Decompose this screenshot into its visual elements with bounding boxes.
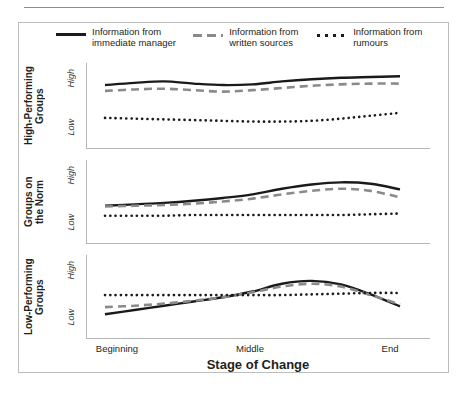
y-tick-high: High [66, 261, 76, 280]
legend-label: Information from rumours [353, 26, 422, 48]
legend-label: Information from immediate manager [92, 26, 176, 48]
dotted-line-icon [317, 29, 347, 41]
chart-legend: Information from immediate manager Infor… [38, 26, 428, 60]
panel-label: Groups on the Norm [26, 160, 42, 244]
series-line [105, 113, 400, 122]
panel-label: Low-Performing Groups [26, 255, 42, 339]
plot-area-panel-1 [86, 63, 430, 149]
y-tick-high: High [66, 166, 76, 185]
series-line [105, 214, 400, 216]
series-line [105, 182, 400, 205]
y-tick-low: Low [66, 309, 76, 326]
top-horizontal-rule [24, 7, 444, 8]
x-tick-beginning: Beginning [74, 343, 160, 354]
plot-area-panel-2 [86, 160, 430, 244]
series-line [105, 281, 400, 314]
x-tick-middle: Middle [215, 343, 285, 354]
legend-item-rumours: Information from rumours [317, 26, 428, 60]
y-tick-low: Low [66, 214, 76, 231]
y-tick-low: Low [66, 119, 76, 136]
x-axis-title: Stage of Change [86, 357, 430, 372]
legend-item-immediate-manager: Information from immediate manager [38, 26, 193, 60]
plot-area-panel-3 [86, 255, 430, 339]
y-tick-high: High [66, 69, 76, 88]
x-tick-end: End [355, 343, 425, 354]
legend-label: Information from written sources [229, 26, 298, 48]
panel-label: High-Performing Groups [26, 63, 42, 149]
figure-root: Information from immediate manager Infor… [0, 0, 467, 394]
legend-item-written-sources: Information from written sources [193, 26, 317, 60]
solid-line-icon [56, 29, 86, 41]
dashed-line-icon [193, 29, 223, 41]
